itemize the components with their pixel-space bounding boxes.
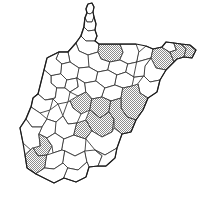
map-container [0, 0, 206, 197]
west-virginia-county-map [0, 0, 206, 197]
county-layer [20, 3, 196, 183]
